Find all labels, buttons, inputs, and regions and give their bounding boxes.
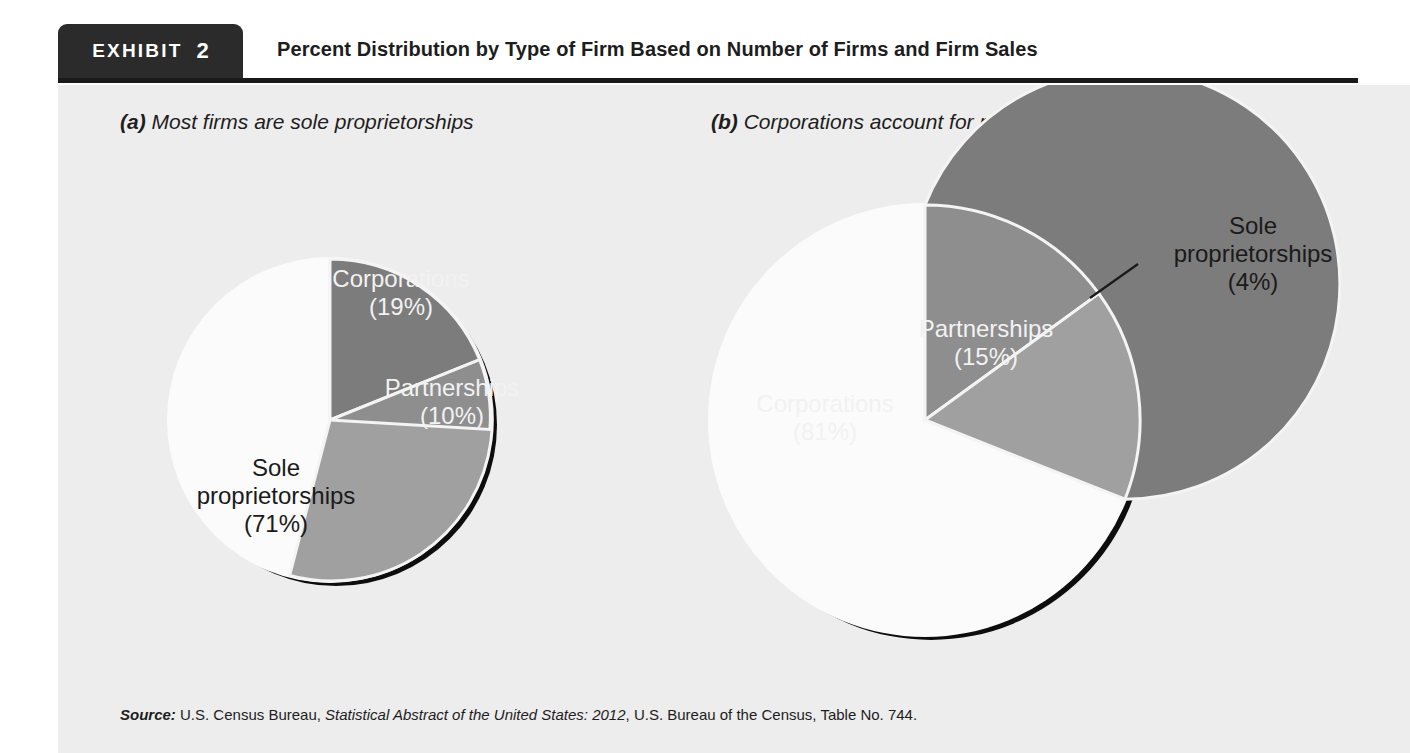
pie-a-label-corporations: Corporations (19%) — [301, 265, 501, 321]
pie-a-label-sole-line2: proprietorships — [176, 482, 376, 510]
pie-a-label-sole-line1: Sole — [176, 454, 376, 482]
pie-b-label-sole-line1: Sole — [1148, 212, 1358, 240]
exhibit-title: Percent Distribution by Type of Firm Bas… — [277, 38, 1038, 61]
pie-b-label-partnerships: Partnerships (15%) — [891, 315, 1081, 371]
exhibit-panel: (a) Most firms are sole proprietorships … — [58, 85, 1410, 753]
pie-b-label-corporations-pct: (81%) — [730, 418, 920, 446]
pie-a-label-partnerships-pct: (10%) — [357, 402, 547, 430]
exhibit-badge: EXHIBIT 2 — [58, 24, 243, 78]
pie-b-label-corporations: Corporations (81%) — [730, 390, 920, 446]
source-text-2: , U.S. Bureau of the Census, Table No. 7… — [626, 706, 918, 723]
pie-a-label-sole-pct: (71%) — [176, 510, 376, 538]
header-rule — [58, 78, 1358, 83]
source-note: Source: U.S. Census Bureau, Statistical … — [120, 706, 917, 723]
pie-a-label-corporations-name: Corporations — [301, 265, 501, 293]
pie-b-label-sole-proprietorships: Sole proprietorships (4%) — [1148, 212, 1358, 295]
pie-a-label-sole-proprietorships: Sole proprietorships (71%) — [176, 454, 376, 537]
pie-a-label-corporations-pct: (19%) — [301, 293, 501, 321]
pie-b-label-sole-line2: proprietorships — [1148, 240, 1358, 268]
source-text-1: U.S. Census Bureau, — [176, 706, 325, 723]
pie-a-label-partnerships-name: Partnerships — [357, 374, 547, 402]
source-label: Source: — [120, 706, 176, 723]
exhibit-page: EXHIBIT 2 Percent Distribution by Type o… — [0, 0, 1410, 753]
pie-b-label-partnerships-pct: (15%) — [891, 343, 1081, 371]
pie-a-label-partnerships: Partnerships (10%) — [357, 374, 547, 430]
pie-b-label-sole-pct: (4%) — [1148, 268, 1358, 296]
exhibit-badge-word: EXHIBIT — [92, 40, 182, 62]
exhibit-badge-number: 2 — [197, 38, 209, 64]
pie-b-label-corporations-name: Corporations — [730, 390, 920, 418]
source-publication: Statistical Abstract of the United State… — [325, 706, 625, 723]
pie-b-label-partnerships-name: Partnerships — [891, 315, 1081, 343]
